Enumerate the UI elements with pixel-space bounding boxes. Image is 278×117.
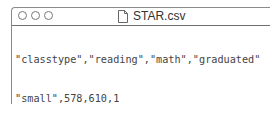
- window-controls: [18, 11, 53, 20]
- window-title: STAR.csv: [133, 9, 185, 23]
- csv-row: "small",578,610,1: [15, 92, 260, 105]
- title-bar[interactable]: STAR.csv: [12, 8, 270, 26]
- document-icon: [118, 10, 128, 23]
- zoom-button[interactable]: [44, 11, 53, 20]
- file-content[interactable]: "classtype","reading","math","graduated"…: [15, 27, 260, 117]
- minimize-button[interactable]: [31, 11, 40, 20]
- text-editor-window: STAR.csv "classtype","reading","math","g…: [11, 7, 270, 104]
- csv-header-line: "classtype","reading","math","graduated": [15, 53, 260, 66]
- window-title-group: STAR.csv: [118, 9, 185, 23]
- close-button[interactable]: [18, 11, 27, 20]
